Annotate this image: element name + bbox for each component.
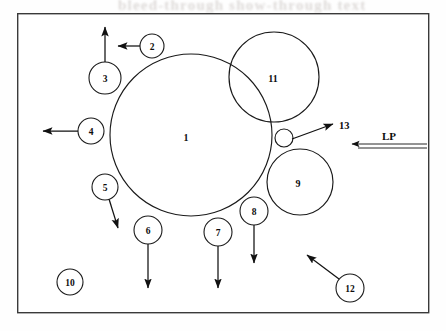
- callout-label-2: 2: [150, 42, 155, 52]
- diagram-svg: 1 11 9 23456781012 13 LP: [0, 0, 446, 331]
- diagram-canvas: bleed-through show-through text 1 11 9: [0, 0, 446, 331]
- callout-label-8: 8: [252, 207, 257, 217]
- callout-label-7: 7: [216, 228, 221, 238]
- callout-label-10: 10: [65, 278, 75, 288]
- shape-label-lower-right-circle: 9: [296, 178, 301, 189]
- callout-label-12: 12: [345, 284, 355, 294]
- diagram-frame-border: [18, 14, 429, 313]
- callout-label-5: 5: [103, 183, 108, 193]
- lp-arrow-label: LP: [382, 130, 396, 142]
- shape-label-upper-right-circle: 11: [268, 73, 277, 84]
- callout-label-3: 3: [103, 74, 108, 84]
- callout-label-6: 6: [146, 226, 151, 236]
- label-13: 13: [339, 120, 350, 131]
- shape-label-main-circle: 1: [184, 132, 189, 143]
- callout-label-4: 4: [89, 127, 94, 137]
